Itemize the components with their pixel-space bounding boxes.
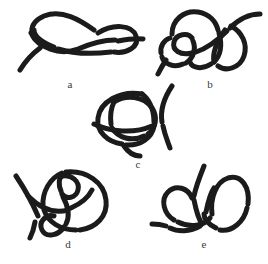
knot-c-right-strand-upper (161, 86, 172, 122)
knot-diagram-b (148, 0, 268, 80)
knot-a-drawing (8, 2, 148, 78)
knot-d-inner-upper-lobe (62, 176, 78, 198)
knot-b-drawing (148, 0, 268, 80)
knot-e-tail-top (194, 166, 204, 196)
knot-e-drawing (148, 162, 264, 244)
knot-b-left-lower-return (161, 38, 170, 53)
knot-diagram-e (148, 162, 264, 244)
knot-e-left-loop-upper (164, 188, 192, 220)
knot-c-inner-left-arc (111, 102, 114, 124)
panel-label-b: b (200, 78, 220, 90)
knot-diagram-d (10, 164, 126, 244)
knot-b-left-upper-coil (174, 35, 192, 54)
knot-c-right-strand-lower (163, 126, 170, 148)
knot-e-right-loop-upper (212, 177, 249, 214)
knot-e-right-loop-lower (220, 208, 247, 230)
knot-d-inner-upper-left (59, 176, 62, 191)
knot-c-horizontal-strand (94, 124, 152, 131)
knot-diagram-c (86, 84, 190, 160)
knot-a-tail-right (118, 39, 143, 41)
panel-label-d: d (58, 238, 78, 250)
panel-label-a: a (60, 78, 80, 90)
panel-label-c: c (128, 158, 148, 170)
knot-b-tail-lower-left (158, 60, 166, 74)
knot-d-drawing (10, 164, 126, 244)
knot-c-bottom-tail (124, 146, 140, 156)
knot-e-center-strand (194, 200, 202, 224)
knot-d-tail-lower-left (30, 222, 35, 238)
knot-figure-sheet: a (0, 0, 268, 264)
knot-c-drawing (86, 84, 190, 160)
knot-a-tail-left (20, 48, 40, 70)
panel-label-e: e (194, 238, 214, 250)
knot-b-bottom-left-curl (190, 62, 211, 68)
knot-e-tail-left (152, 224, 166, 226)
knot-diagram-a (8, 2, 148, 78)
knot-b-upper-hump (172, 12, 218, 34)
